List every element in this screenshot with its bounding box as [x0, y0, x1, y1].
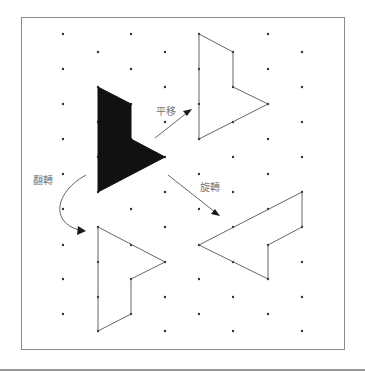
grid-dot: [130, 33, 132, 35]
transformation-diagram: [0, 0, 365, 372]
grid-dot: [301, 51, 303, 53]
grid-dot: [267, 68, 269, 70]
grid-dot: [232, 296, 234, 298]
grid-dot: [62, 68, 64, 70]
grid-dot: [62, 33, 64, 35]
grid-dot: [130, 208, 132, 210]
flip-label: 翻轉: [33, 176, 53, 186]
grid-dot: [62, 278, 64, 280]
grid-dot: [301, 330, 303, 332]
grid-dot: [267, 313, 269, 315]
grid-dot: [164, 191, 166, 193]
grid-dot: [198, 313, 200, 315]
grid-dot: [301, 296, 303, 298]
grid-dot: [267, 173, 269, 175]
rotate-label: 旋轉: [200, 183, 220, 193]
translate-label: 平移: [156, 107, 176, 117]
grid-dot: [164, 121, 166, 123]
grid-dot: [301, 156, 303, 158]
grid-dot: [198, 208, 200, 210]
grid-dot: [62, 173, 64, 175]
diagram-frame: [22, 18, 345, 350]
grid-dot: [62, 103, 64, 105]
grid-dot: [164, 226, 166, 228]
grid-dot: [62, 313, 64, 315]
grid-dot: [130, 68, 132, 70]
grid-dot: [62, 138, 64, 140]
grid-dot: [164, 86, 166, 88]
grid-dot: [62, 208, 64, 210]
grid-dot: [62, 244, 64, 246]
grid-dot: [301, 261, 303, 263]
grid-dot: [267, 138, 269, 140]
grid-dot: [198, 173, 200, 175]
grid-dot: [164, 296, 166, 298]
grid-dot: [232, 330, 234, 332]
grid-dot: [232, 156, 234, 158]
grid-dot: [198, 278, 200, 280]
bottom-divider: [0, 369, 365, 371]
grid-dot: [232, 191, 234, 193]
grid-dot: [164, 51, 166, 53]
grid-dot: [97, 51, 99, 53]
grid-dot: [164, 330, 166, 332]
grid-dot: [267, 33, 269, 35]
grid-dot: [301, 86, 303, 88]
grid-dot: [301, 121, 303, 123]
